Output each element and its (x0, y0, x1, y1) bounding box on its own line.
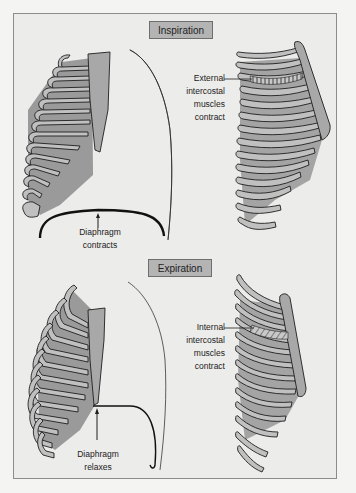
expiration-label: Expiration (148, 259, 212, 277)
expiration-side-view (28, 282, 166, 470)
expiration-rib-view (224, 275, 306, 472)
internal-intercostal-annotation: Internal intercostal muscles contract (180, 321, 225, 373)
inspiration-label: Inspiration (149, 21, 213, 39)
inspiration-rib-view (224, 41, 330, 229)
external-intercostal-annotation: External intercostal muscles contract (180, 72, 225, 124)
respiration-diagram (0, 0, 356, 493)
diaphragm-contracts-annotation: Diaphragm contracts (70, 226, 130, 252)
inspiration-side-view (23, 50, 172, 240)
diaphragm-relaxes-annotation: Diaphragm relaxes (68, 448, 128, 474)
